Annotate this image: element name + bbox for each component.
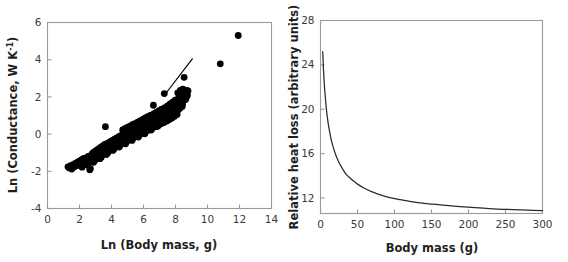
data-point [149,124,156,131]
y-tick-label: 20 [301,103,314,115]
data-point [91,157,98,164]
data-point [235,32,242,39]
x-tick-label: 150 [421,218,441,230]
y-tick-label: 0 [35,128,42,140]
right-x-axis-title: Body mass (g) [386,241,479,255]
x-tick-label: 100 [384,218,404,230]
data-point [111,146,118,153]
data-point [123,138,130,145]
data-point [79,164,86,171]
x-tick-label: 6 [140,213,147,225]
right-axis-ticks [321,21,543,214]
y-tick-label: 2 [35,91,42,103]
y-tick-label: 16 [301,147,315,159]
right-plot-svg: 0501001502002503001216202428 Body mass (… [284,0,568,262]
right-tick-labels: 0501001502002503001216202428 [301,14,552,229]
x-tick-label: 50 [351,218,364,230]
left-plot-svg: 02468101214-4-20246 Ln (Body mass, g) Ln… [0,0,284,262]
left-x-axis-title: Ln (Body mass, g) [101,238,217,252]
x-tick-label: 14 [265,213,279,225]
y-tick-label: 24 [301,58,315,70]
x-tick-label: 8 [172,213,179,225]
left-y-axis-title: Ln (Conductance, W K-1) [6,37,20,194]
right-plot-frame [321,21,543,214]
x-tick-label: 200 [458,218,478,230]
data-point [136,131,143,138]
y-tick-label: 12 [301,192,314,204]
panel-left-scatter: 02468101214-4-20246 Ln (Body mass, g) Ln… [0,0,284,262]
left-scatter-points [65,32,242,173]
data-point [168,111,175,118]
y-tick-label: 4 [35,53,42,65]
x-tick-label: 12 [233,213,246,225]
data-point [104,150,111,157]
data-point [175,107,182,114]
data-point [150,102,157,109]
y-tick-label: 6 [35,16,42,28]
x-tick-label: 0 [44,213,51,225]
x-tick-label: 2 [76,213,83,225]
data-point [117,141,124,148]
y-tick-label: -4 [31,202,42,214]
y-tick-label: -2 [31,165,41,177]
right-y-axis-title: Relative heat loss (arbitrary units) [287,5,301,230]
data-point [184,93,191,100]
right-decay-curve [323,52,543,211]
x-tick-label: 300 [532,218,552,230]
panel-right-line: 0501001502002503001216202428 Body mass (… [284,0,568,262]
x-tick-label: 4 [108,213,115,225]
y-tick-label: 28 [301,14,314,26]
data-point [181,74,188,81]
data-point [102,123,109,130]
x-tick-label: 10 [201,213,214,225]
data-point [98,154,105,161]
data-point [155,120,162,127]
data-point [130,135,137,142]
data-point [161,90,168,97]
data-point [85,160,92,167]
data-point [143,128,150,135]
x-tick-label: 0 [317,218,324,230]
figure-container: 02468101214-4-20246 Ln (Body mass, g) Ln… [0,0,568,262]
data-point [162,116,169,123]
x-tick-label: 250 [495,218,515,230]
data-point [217,60,224,67]
